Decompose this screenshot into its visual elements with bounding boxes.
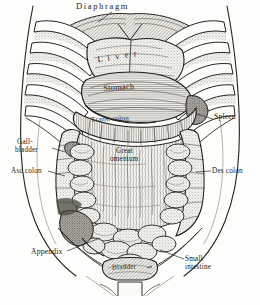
abdomen-anatomy-plate [0,0,260,305]
bladder [103,258,158,281]
anatomical-illustration: Diaphragm L i v e r Stomach Spleen Gall-… [0,0,260,305]
